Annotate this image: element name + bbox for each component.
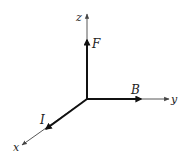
y-axis-label: y [170,93,178,106]
vectors [46,40,141,129]
x-axis-label: x [13,141,20,154]
vector-b-label: B [130,83,140,97]
z-axis-label: z [75,11,82,24]
vector-f-label: F [91,37,101,51]
vector-i-label: I [39,113,45,127]
vector-i [46,99,87,129]
coordinate-diagram: z y x F B I [0,0,187,165]
